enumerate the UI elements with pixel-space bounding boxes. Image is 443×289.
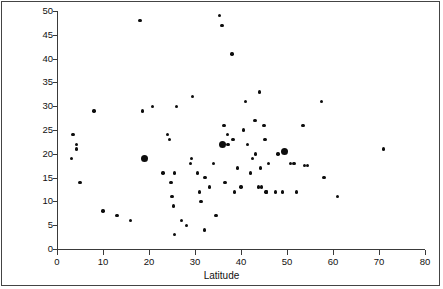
data-point [161, 171, 164, 174]
x-tick-20 [149, 250, 150, 255]
data-point [236, 166, 239, 169]
data-point [219, 141, 226, 148]
data-point [276, 152, 279, 155]
data-point [301, 124, 304, 127]
data-point [190, 157, 193, 160]
y-tick-label-35: 35 [23, 77, 53, 86]
data-point [242, 128, 245, 131]
data-point [203, 176, 206, 179]
data-point [191, 95, 194, 98]
y-tick-label-20: 20 [23, 149, 53, 158]
data-point [231, 138, 234, 141]
data-point [180, 219, 183, 222]
x-tick-label-0: 0 [42, 257, 72, 266]
data-point [173, 233, 176, 236]
data-point [233, 190, 236, 193]
y-tick-label-25: 25 [23, 125, 53, 134]
data-point [259, 166, 262, 169]
data-point [78, 181, 81, 184]
x-tick-label-20: 20 [134, 257, 164, 266]
y-tick-25 [53, 130, 58, 131]
data-point [151, 105, 154, 108]
y-tick-40 [53, 59, 58, 60]
data-point [281, 148, 288, 155]
data-point [292, 162, 295, 165]
data-point [265, 190, 268, 193]
data-point [263, 138, 266, 141]
x-tick-70 [379, 250, 380, 255]
data-point [101, 209, 104, 212]
data-point [172, 204, 175, 207]
data-point [92, 109, 95, 112]
y-tick-35 [53, 82, 58, 83]
y-tick-15 [53, 178, 58, 179]
data-point [115, 214, 118, 217]
data-point [169, 181, 172, 184]
data-point [198, 190, 201, 193]
data-point [254, 152, 257, 155]
data-point [203, 228, 206, 231]
data-point [382, 147, 385, 150]
y-tick-label-30: 30 [23, 101, 53, 110]
x-tick-50 [287, 250, 288, 255]
y-tick-label-50: 50 [23, 6, 53, 15]
data-point [208, 185, 211, 188]
y-tick-5 [53, 225, 58, 226]
x-tick-label-80: 80 [410, 257, 440, 266]
data-point [189, 162, 192, 165]
data-point [173, 171, 176, 174]
x-tick-60 [333, 250, 334, 255]
y-tick-label-15: 15 [23, 173, 53, 182]
y-tick-45 [53, 35, 58, 36]
data-point [239, 185, 242, 188]
data-point [336, 195, 339, 198]
data-point [260, 185, 263, 188]
x-tick-30 [195, 250, 196, 255]
y-tick-label-0: 0 [23, 244, 53, 253]
y-tick-label-40: 40 [23, 54, 53, 63]
data-point [295, 190, 298, 193]
data-point [75, 143, 78, 146]
data-point [196, 171, 199, 174]
data-point [253, 119, 256, 122]
y-tick-label-45: 45 [23, 30, 53, 39]
x-tick-40 [241, 250, 242, 255]
data-point [185, 224, 188, 227]
y-tick-label-10: 10 [23, 196, 53, 205]
data-point [222, 124, 225, 127]
data-point [138, 19, 141, 22]
data-point [322, 176, 325, 179]
data-point [70, 157, 73, 160]
data-point [175, 105, 178, 108]
data-point [258, 90, 261, 93]
x-tick-label-40: 40 [226, 257, 256, 266]
y-tick-20 [53, 154, 58, 155]
y-tick-50 [53, 11, 58, 12]
scatter-plot-figure: 05101520253035404550 01020304050607080 L… [0, 0, 443, 289]
data-point [141, 155, 148, 162]
data-point [262, 124, 265, 127]
x-tick-label-70: 70 [364, 257, 394, 266]
x-axis-title: Latitude [0, 270, 443, 281]
data-point [226, 143, 229, 146]
data-point [274, 190, 277, 193]
y-tick-30 [53, 106, 58, 107]
data-point [281, 190, 284, 193]
data-point [223, 181, 226, 184]
data-point [71, 133, 74, 136]
data-point [166, 133, 169, 136]
y-tick-10 [53, 201, 58, 202]
y-tick-label-5: 5 [23, 220, 53, 229]
data-point [214, 214, 217, 217]
data-point [306, 164, 309, 167]
data-point [230, 52, 233, 55]
data-point [244, 100, 247, 103]
data-point [218, 14, 221, 17]
data-point [320, 100, 323, 103]
data-point [212, 162, 215, 165]
data-point [129, 219, 132, 222]
data-point [75, 147, 78, 150]
data-point [220, 24, 223, 27]
data-point [170, 195, 173, 198]
data-point [168, 138, 171, 141]
